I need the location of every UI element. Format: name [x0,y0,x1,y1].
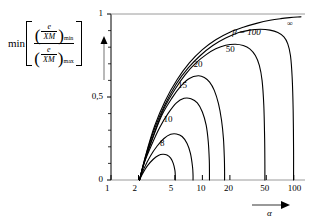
fraction-bar-main [34,43,74,44]
y-axis-label: min ( e XM ) min ( e [8,14,104,72]
chart-figure: min ( e XM ) min ( e [0,0,309,223]
curves-layer [139,17,301,180]
x-tick-label: 2 [133,184,138,193]
x-tick-label: 1 [105,184,110,193]
x-tick-label: 10 [196,184,205,193]
x-tick-label: 50 [260,184,269,193]
bracket-group: ( e XM ) min ( e XM [26,21,82,66]
y-tick-label: 0 [81,175,103,184]
inner-fraction-denominator: e XM [40,46,58,64]
curve-label-beta-10: 10 [164,115,173,124]
curve-beta-10 [139,134,193,180]
x-axis-arrow-head [281,201,290,209]
x-tick-label: 100 [288,184,302,193]
curve-label-beta-8: 8 [160,139,165,148]
outer-fraction: ( e XM ) min ( e XM [32,21,76,66]
min-operator: min [8,38,25,49]
x-axis-name: α [267,209,272,218]
x-tick-label: 20 [224,184,233,193]
curve-label-beta-100: β = 100 [232,28,261,37]
subscript-max: max [63,58,73,64]
curve-label-beta-15: 15 [178,81,187,90]
y-tick-label: 1 [81,9,103,18]
xm-symbol-num: XM [44,33,56,41]
subscript-min: min [64,35,73,41]
bracket-right [76,21,82,66]
x-tick-label: 5 [169,184,174,193]
curve-label-beta-50: 50 [226,45,235,54]
curve-beta-100 [139,29,293,180]
curve-label-beta-inf: ∞ [287,20,293,28]
e-symbol-den: e [47,46,51,54]
denominator-term: ( e XM ) max [34,45,74,65]
curve-beta-20 [139,76,224,180]
xm-symbol-den: XM [43,56,55,64]
inner-fraction-numerator: e XM [40,23,58,41]
numerator-term: ( e XM ) min [35,22,74,42]
e-symbol-num: e [48,23,52,31]
curve-label-beta-20: 20 [194,60,203,69]
y-tick-label: 0,5 [81,92,103,101]
